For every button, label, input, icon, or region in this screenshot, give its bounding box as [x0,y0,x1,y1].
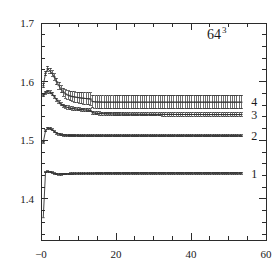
x-tick-label: −0 [35,248,47,260]
series-1 [42,171,243,218]
plot-canvas: −02040601.41.51.61.71234643 [0,0,280,273]
series-4 [42,66,243,109]
series-label-4: 4 [251,95,257,109]
x-tick-label: 20 [111,248,123,260]
y-tick-label: 1.7 [20,17,34,29]
x-tick-label: 60 [261,248,273,260]
x-tick-label: 40 [186,248,198,260]
series-label-3: 3 [251,108,257,122]
series-line [43,172,241,218]
annotation-lattice-size-exponent: 3 [222,25,227,35]
y-tick-label: 1.6 [20,76,34,88]
series-2 [42,127,243,143]
annotation-lattice-size: 64 [207,27,221,42]
y-tick-label: 1.5 [20,134,34,146]
chart-root: −02040601.41.51.61.71234643 [0,0,280,273]
y-tick-label: 1.4 [20,193,34,205]
series-label-1: 1 [251,167,257,181]
series-label-2: 2 [251,129,257,143]
plot-frame [41,23,266,240]
